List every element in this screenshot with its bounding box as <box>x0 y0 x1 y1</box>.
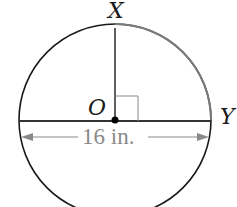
center-dot <box>112 117 119 124</box>
arrow-right-icon <box>197 133 209 141</box>
arrow-left-icon <box>21 133 33 141</box>
circle-diagram <box>0 0 237 207</box>
dimension-label: 16 in. <box>81 124 135 150</box>
right-angle-marker <box>115 96 138 121</box>
label-o: O <box>88 95 106 120</box>
label-x: X <box>108 0 124 23</box>
label-y: Y <box>220 104 235 129</box>
arc-xy <box>115 24 211 120</box>
